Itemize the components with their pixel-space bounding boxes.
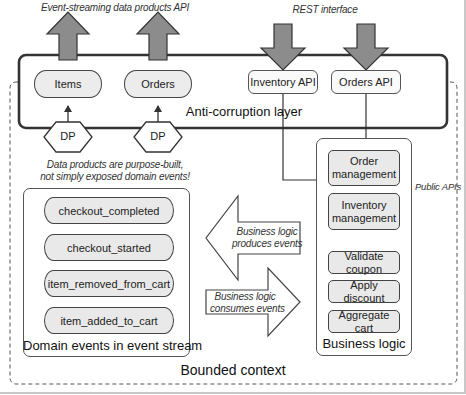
event-checkout-completed[interactable]: checkout_completed	[44, 197, 174, 224]
business-logic-title: Business logic	[316, 336, 412, 351]
event-label: checkout_started	[67, 242, 151, 254]
items-data-product[interactable]: Items	[34, 70, 102, 98]
anti-corruption-layer-label: Anti-corruption layer	[180, 104, 308, 119]
orders-api-box[interactable]: Orders API	[331, 70, 401, 94]
items-label: Items	[55, 78, 82, 90]
order-management-line2: management	[332, 168, 396, 181]
up-arrow-icon	[137, 12, 179, 60]
consumes-events-arrow	[206, 268, 300, 336]
event-label: item_removed_from_cart	[48, 278, 170, 290]
orders-label: Orders	[141, 78, 175, 90]
aggregate-cart-label: Aggregate cart	[329, 309, 399, 335]
public-apis-label: Public APIs	[414, 181, 462, 192]
inventory-management-line2: management	[332, 212, 396, 225]
validate-coupon-label: Validate coupon	[329, 250, 399, 276]
domain-events-title: Domain events in event stream	[23, 338, 190, 353]
event-checkout-started[interactable]: checkout_started	[44, 234, 174, 261]
event-label: item_added_to_cart	[60, 315, 157, 327]
inventory-api-box[interactable]: Inventory API	[248, 70, 318, 94]
inventory-api-label: Inventory API	[250, 76, 315, 88]
order-management-line1: Order	[350, 155, 378, 168]
aggregate-cart-box[interactable]: Aggregate cart	[328, 310, 400, 333]
bounded-context-label: Bounded context	[180, 362, 286, 378]
event-item-added-to-cart[interactable]: item_added_to_cart	[44, 307, 174, 334]
orders-api-label: Orders API	[339, 76, 393, 88]
dp-label: DP	[56, 130, 80, 142]
inventory-management-box[interactable]: Inventory management	[328, 193, 400, 230]
orders-data-product[interactable]: Orders	[124, 70, 192, 98]
data-products-note-line1: Data products are purpose-built,	[30, 159, 200, 170]
apply-discount-box[interactable]: Apply discount	[328, 280, 400, 303]
order-management-box[interactable]: Order management	[328, 150, 400, 186]
event-streaming-api-label: Event-streaming data products API	[40, 2, 190, 13]
validate-coupon-box[interactable]: Validate coupon	[328, 251, 400, 274]
up-arrow-icon	[47, 12, 89, 60]
inventory-management-line1: Inventory	[341, 199, 386, 212]
event-label: checkout_completed	[59, 205, 160, 217]
dp-label: DP	[146, 130, 170, 142]
consumes-events-line2: consumes events	[210, 303, 280, 314]
apply-discount-label: Apply discount	[329, 279, 399, 305]
data-products-note-line2: not simply exposed domain events!	[30, 171, 200, 182]
rest-interface-label: REST interface	[285, 4, 365, 15]
event-item-removed-from-cart[interactable]: item_removed_from_cart	[44, 270, 174, 297]
produces-events-line2: produces events	[232, 238, 302, 249]
consumes-events-line1: Business logic	[210, 291, 280, 302]
produces-events-line1: Business logic	[232, 226, 302, 237]
